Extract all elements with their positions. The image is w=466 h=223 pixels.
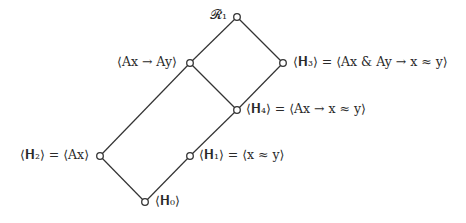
label-h0: ⟨𝐇₀⟩ xyxy=(155,194,180,208)
node-h3 xyxy=(280,60,287,67)
node-r1 xyxy=(234,14,241,21)
edge-axay-h2 xyxy=(100,63,190,156)
label-h1: ⟨𝐇₁⟩ = ⟨x ≈ y⟩ xyxy=(199,148,284,162)
node-axay xyxy=(187,60,194,67)
node-h4 xyxy=(234,107,241,114)
edge-r1-h3 xyxy=(237,17,283,63)
node-h0 xyxy=(142,199,149,206)
label-h3: ⟨𝐇₃⟩ = ⟨Ax & Ay → x ≈ y⟩ xyxy=(293,55,448,69)
label-h4: ⟨𝐇₄⟩ = ⟨Ax → x ≈ y⟩ xyxy=(246,102,366,116)
lattice-diagram xyxy=(0,0,466,223)
node-h1 xyxy=(187,153,194,160)
node-h2 xyxy=(97,153,104,160)
edge-h2-h0 xyxy=(100,156,145,202)
label-h2: ⟨𝐇₂⟩ = ⟨Ax⟩ xyxy=(20,148,89,162)
edge-axay-h4 xyxy=(190,63,237,110)
edge-r1-axay xyxy=(190,17,237,63)
label-axay: ⟨Ax → Ay⟩ xyxy=(117,55,177,69)
label-r1: 𝓡₁ xyxy=(210,8,227,22)
